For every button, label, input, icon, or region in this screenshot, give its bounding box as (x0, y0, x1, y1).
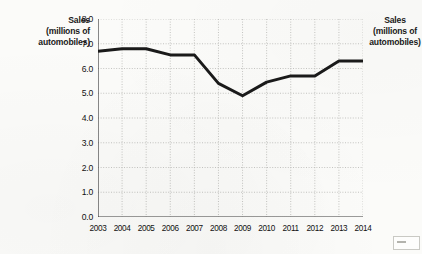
y-tick-label: 8.0 (71, 14, 93, 24)
x-tick-label: 2008 (205, 224, 231, 233)
y-axis-caption-right: Sales (millions of automobiles) (368, 15, 422, 47)
sales-data-line (98, 49, 363, 96)
x-tick-label: 2004 (109, 224, 135, 233)
y-tick-label: 7.0 (71, 39, 93, 49)
x-tick-label: 2014 (350, 224, 376, 233)
y-tick-label: 1.0 (71, 187, 93, 197)
y-tick-label: 3.0 (71, 138, 93, 148)
x-tick-label: 2007 (181, 224, 207, 233)
x-tick-label: 2011 (278, 224, 304, 233)
y-tick-label: 0.0 (71, 212, 93, 222)
x-tick-label: 2010 (254, 224, 280, 233)
x-tick-label: 2013 (326, 224, 352, 233)
x-tick-label: 2006 (157, 224, 183, 233)
x-tick-label: 2012 (302, 224, 328, 233)
horizontal-gridlines (98, 19, 363, 192)
plot-area (98, 19, 363, 217)
y-tick-label: 4.0 (71, 113, 93, 123)
x-tick-label: 2009 (230, 224, 256, 233)
y-tick-label: 2.0 (71, 163, 93, 173)
scan-artifact-mark (397, 241, 406, 243)
scan-artifact-box (393, 236, 420, 250)
line-chart-svg (98, 19, 363, 217)
x-tick-label: 2005 (133, 224, 159, 233)
y-axis-caption-right-line1: Sales (368, 15, 422, 26)
y-tick-label: 6.0 (71, 64, 93, 74)
chart-screenshot: Sales (millions of automobiles) Sales (m… (0, 0, 422, 254)
y-axis-caption-right-line3: automobiles) (368, 37, 422, 48)
y-tick-label: 5.0 (71, 88, 93, 98)
y-axis-caption-right-line2: (millions of (368, 26, 422, 37)
x-tick-label: 2003 (85, 224, 111, 233)
y-axis-caption-left-line2: (millions of (0, 26, 90, 37)
